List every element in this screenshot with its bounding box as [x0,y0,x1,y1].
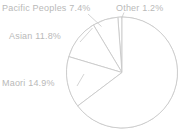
pie-chart-graphic [0,0,185,131]
pie-label-pacific-peoples: Pacific Peoples 7.4% [2,3,91,13]
pie-label-asian: Asian 11.8% [9,31,61,41]
pie-label-other: Other 1.2% [116,3,164,13]
pie-chart-figure: Pacific Peoples 7.4% Other 1.2% Asian 11… [0,0,185,131]
pie-label-maori: Maori 14.9% [2,78,55,88]
